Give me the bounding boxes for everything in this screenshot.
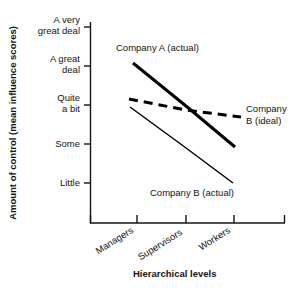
x-axis-title: Hierarchical levels [133,268,216,279]
y-axis-title: Amount of control (mean influence scores… [7,26,18,220]
y-tick-label-a-very-great-deal: A very great deal [38,14,81,36]
influence-line-chart: A very great deal A great deal Quite a b… [0,0,304,296]
x-category-label-workers: Workers [196,224,232,252]
y-tick-label-some: Some [55,138,80,149]
y-tick-label-quite-a-bit: Quite a bit [57,92,80,114]
svg-text:Little: Little [60,177,80,188]
svg-text:A very: A very [54,14,81,25]
series-line-company-b-ideal [129,99,241,117]
svg-text:deal: deal [62,64,80,75]
series-line-company-a-actual [133,63,235,147]
svg-text:A great: A great [50,53,80,64]
chart-container: A very great deal A great deal Quite a b… [0,0,304,296]
series-label-company-b-ideal: Company B (ideal) [246,103,287,126]
svg-text:Quite: Quite [57,92,80,103]
svg-text:Company: Company [246,103,287,114]
svg-text:Some: Some [55,138,80,149]
x-category-label-supervisors: Supervisors [136,226,185,262]
x-category-label-managers: Managers [93,224,135,256]
series-line-company-b-actual [130,107,233,183]
y-tick-label-a-great-deal: A great deal [50,53,80,75]
svg-text:great deal: great deal [38,25,80,36]
y-tick-label-little: Little [60,177,80,188]
series-label-company-b-actual: Company B (actual) [150,187,234,198]
series-label-company-a-actual: Company A (actual) [116,42,199,53]
svg-text:a bit: a bit [62,103,80,114]
svg-text:B (ideal): B (ideal) [246,115,281,126]
